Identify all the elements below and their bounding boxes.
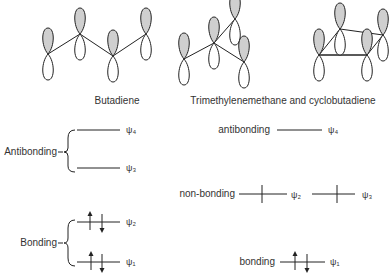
label-psi3-tmm: ψ₃ [362, 190, 372, 200]
p-orbital [179, 33, 190, 85]
label-psi1-tmm: ψ₁ [330, 257, 339, 267]
cyclobutadiene-structure [314, 3, 389, 81]
label-bonding-tmm: bonding [239, 256, 275, 267]
p-orbital [378, 9, 389, 61]
p-orbital [209, 17, 220, 69]
mo-diagram: Butadiene Trimethylenemethane and cyclob… [0, 0, 391, 280]
p-orbital [108, 30, 119, 82]
label-psi4: ψ₄ [126, 125, 136, 135]
trimethylenemethane-structure [179, 0, 250, 88]
label-psi2-tmm: ψ₂ [291, 190, 301, 200]
butadiene-energy-diagram: Antibonding ψ₄ ψ₃ Bonding ψ₂ ψ₁ [4, 125, 136, 273]
label-psi1: ψ₁ [126, 257, 135, 267]
p-orbital [335, 3, 346, 55]
label-psi2: ψ₂ [126, 217, 136, 227]
butadiene-structure [43, 8, 152, 82]
label-nonbonding: non-bonding [179, 188, 235, 199]
p-orbital [75, 8, 86, 60]
caption-tmm-cbd: Trimethylenemethane and cyclobutadiene [190, 95, 376, 106]
label-psi3: ψ₃ [126, 163, 136, 173]
label-antibonding: Antibonding [4, 146, 57, 157]
label-antibonding-tmm: antibonding [218, 124, 270, 135]
p-orbital [239, 36, 250, 88]
label-psi4-tmm: ψ₄ [328, 125, 338, 135]
p-orbital [141, 8, 152, 60]
caption-butadiene: Butadiene [94, 95, 139, 106]
p-orbital [43, 28, 54, 80]
tmm-energy-diagram: antibonding ψ₄ non-bonding ψ₂ ψ₃ bonding… [179, 124, 372, 273]
label-bonding: Bonding [20, 237, 57, 248]
